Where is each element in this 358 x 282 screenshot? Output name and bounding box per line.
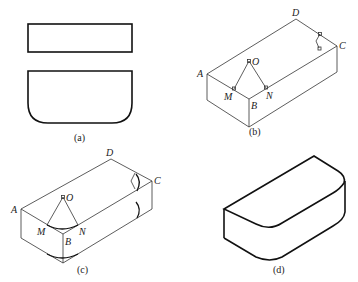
front-view-rounded-shape: [28, 71, 132, 123]
line-om: [234, 61, 249, 89]
solid-top-face: [224, 156, 344, 227]
label-b: B: [251, 100, 257, 111]
figure-d: (d): [224, 156, 345, 276]
label-n: N: [78, 226, 87, 237]
edge-bottom-left: [207, 100, 249, 127]
box-top-face: [207, 19, 337, 99]
label-c: C: [154, 175, 161, 186]
arc-c-top: [136, 174, 139, 191]
arc-mn-bottom: [47, 254, 78, 258]
label-m: M: [36, 226, 46, 237]
construction-zigzag-c: [316, 34, 320, 48]
construction-angle-c: [131, 173, 135, 189]
caption-c: (c): [77, 264, 88, 276]
diagram-canvas: (a) A B C D O M N (b): [0, 0, 358, 282]
label-o: O: [66, 192, 73, 203]
figure-c: A B C D O M N (c): [10, 147, 161, 276]
arc-mn-top: [47, 225, 78, 229]
top-view-rectangle: [28, 24, 132, 52]
label-c: C: [339, 40, 346, 51]
label-o: O: [252, 56, 259, 67]
caption-a: (a): [74, 132, 85, 144]
caption-d: (d): [273, 264, 285, 276]
line-om: [47, 197, 63, 225]
label-m: M: [223, 91, 233, 102]
label-d: D: [291, 7, 300, 18]
figure-b: A B C D O M N (b): [196, 7, 346, 138]
label-n: N: [265, 90, 274, 101]
edge-bottom-left: [21, 238, 63, 263]
label-b: B: [65, 236, 71, 247]
arc-c-bottom: [136, 202, 139, 218]
label-a: A: [196, 68, 204, 79]
label-d: D: [105, 147, 114, 158]
figure-a: (a): [28, 24, 132, 144]
label-a: A: [10, 204, 18, 215]
edge-bottom-right: [249, 72, 337, 127]
caption-b: (b): [249, 126, 261, 138]
box-top-face: [21, 159, 152, 234]
solid-bottom-edge: [224, 212, 345, 260]
